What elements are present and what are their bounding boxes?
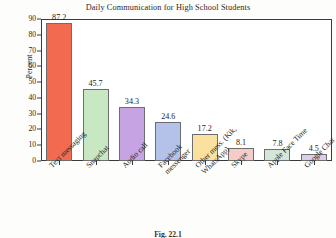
figure-caption: Fig. 22.1 — [0, 230, 336, 238]
bar-value-label: 45.7 — [79, 79, 113, 88]
y-tick-label: 90 — [6, 15, 36, 23]
y-tick-label: 10 — [6, 141, 36, 149]
y-tick-label: 70 — [6, 47, 36, 55]
y-tick-label: 60 — [6, 63, 36, 71]
y-tick-label: 50 — [6, 78, 36, 86]
bar-value-label: 17.2 — [188, 124, 222, 133]
figure-page: Daily Communication for High School Stud… — [0, 0, 336, 238]
chart-title: Daily Communication for High School Stud… — [0, 3, 336, 12]
bar-slot: 24.6 — [151, 19, 185, 161]
bar-value-label: 87.2 — [42, 13, 76, 22]
y-tick-label: 20 — [6, 126, 36, 134]
y-tick-label: 40 — [6, 94, 36, 102]
y-tick-label: 80 — [6, 31, 36, 39]
y-tick-label: 30 — [6, 110, 36, 118]
y-axis-ticks: 0102030405060708090 — [0, 0, 41, 161]
bar-slot: 34.3 — [115, 19, 149, 161]
x-axis-labels: Text messagingSnapchatAudio callFacebook… — [0, 160, 336, 230]
bar-value-label: 34.3 — [115, 97, 149, 106]
bar-value-label: 24.6 — [151, 112, 185, 121]
